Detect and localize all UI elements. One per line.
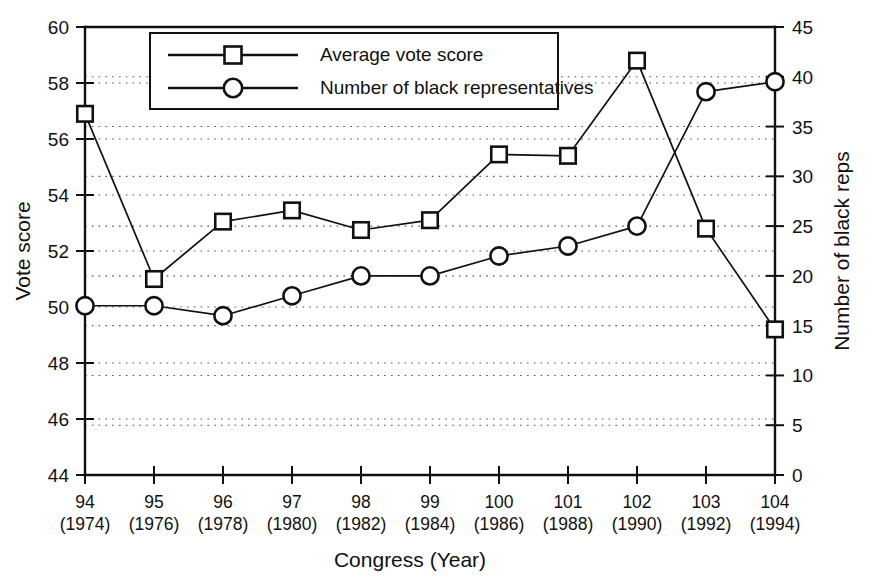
x-axis-tick-label-year: (1982)	[336, 514, 387, 534]
data-point-circle	[283, 287, 300, 304]
chart-canvas: 444648505254565860 051015202530354045 94…	[0, 0, 872, 586]
x-axis-tick-label-year: (1974)	[60, 514, 111, 534]
y-axis-right-tick-label: 35	[792, 117, 813, 138]
x-axis-tick-label-year: (1978)	[198, 514, 249, 534]
data-point-circle	[352, 267, 369, 284]
y-axis-left-tick-label: 56	[48, 129, 69, 150]
x-axis-tick-label-year: (1980)	[267, 514, 318, 534]
data-point-square	[353, 222, 369, 238]
x-axis-title: Congress (Year)	[334, 548, 486, 571]
y-axis-right-tick-label: 30	[792, 166, 813, 187]
x-axis-tick-label-congress: 101	[553, 492, 582, 512]
y-axis-left-ticks: 444648505254565860	[48, 17, 94, 486]
x-axis-tick-label-year: (1990)	[612, 514, 663, 534]
x-axis-tick-label-year: (1984)	[405, 514, 456, 534]
y-axis-right-tick-label: 40	[792, 67, 813, 88]
y-axis-left-tick-label: 58	[48, 73, 69, 94]
legend-marker-square	[225, 47, 242, 64]
data-point-square	[215, 214, 231, 230]
y-axis-left-title: Vote score	[11, 201, 34, 300]
x-axis-tick-label-year: (1988)	[543, 514, 594, 534]
data-point-circle	[559, 237, 576, 254]
x-axis-tick-label-congress: 100	[484, 492, 513, 512]
data-point-square	[629, 53, 645, 69]
x-axis-tick-label-congress: 103	[691, 492, 720, 512]
data-point-square	[77, 106, 93, 122]
y-axis-left-tick-label: 44	[48, 465, 70, 486]
legend-marker-circle	[224, 79, 242, 97]
data-point-square	[767, 322, 783, 338]
data-point-circle	[214, 307, 231, 324]
y-axis-left-tick-label: 52	[48, 241, 69, 262]
data-point-square	[698, 221, 714, 237]
data-point-circle	[697, 83, 714, 100]
y-axis-left-tick-label: 60	[48, 17, 69, 38]
data-point-circle	[421, 267, 438, 284]
chart-figure: 444648505254565860 051015202530354045 94…	[0, 0, 872, 586]
y-axis-right-tick-label: 20	[792, 266, 813, 287]
y-axis-right-tick-label: 25	[792, 216, 813, 237]
legend-item-label: Number of black representatives	[320, 77, 594, 98]
x-axis-tick-label-congress: 98	[351, 492, 370, 512]
x-axis-tick-label-congress: 96	[213, 492, 232, 512]
x-axis-tick-label-congress: 94	[75, 492, 95, 512]
data-point-circle	[490, 247, 507, 264]
y-axis-right-tick-label: 10	[792, 365, 813, 386]
x-axis-tick-label-congress: 104	[760, 492, 789, 512]
x-axis-tick-label-year: (1992)	[681, 514, 732, 534]
data-point-square	[560, 148, 576, 164]
x-axis-tick-label-congress: 95	[144, 492, 163, 512]
x-axis-tick-label-congress: 99	[420, 492, 439, 512]
data-point-square	[284, 203, 300, 219]
legend: Average vote scoreNumber of black repres…	[150, 33, 594, 109]
x-axis-tick-label-year: (1976)	[129, 514, 180, 534]
data-point-circle	[145, 297, 162, 314]
y-axis-left-tick-label: 50	[48, 297, 69, 318]
y-axis-left-tick-label: 46	[48, 409, 69, 430]
x-axis-tick-label-year: (1986)	[474, 514, 525, 534]
y-axis-left-tick-label: 54	[48, 185, 70, 206]
x-axis-tick-label-congress: 97	[282, 492, 301, 512]
data-point-circle	[76, 297, 93, 314]
y-axis-left-tick-label: 48	[48, 353, 69, 374]
y-axis-right-tick-label: 45	[792, 17, 813, 38]
data-point-circle	[628, 218, 645, 235]
x-axis-tick-label-congress: 102	[622, 492, 651, 512]
x-axis-tick-labels: 94(1974)95(1976)96(1978)97(1980)98(1982)…	[60, 492, 801, 534]
y-axis-right-tick-label: 0	[792, 465, 803, 486]
data-point-circle	[766, 73, 783, 90]
data-point-square	[491, 147, 507, 163]
y-axis-right-title: Number of black reps	[830, 151, 853, 351]
x-axis-tick-label-year: (1994)	[750, 514, 801, 534]
data-point-square	[422, 212, 438, 228]
legend-item-label: Average vote score	[320, 44, 483, 65]
y-axis-right-tick-label: 5	[792, 415, 803, 436]
data-point-square	[146, 271, 162, 287]
y-axis-right-tick-label: 15	[792, 316, 813, 337]
